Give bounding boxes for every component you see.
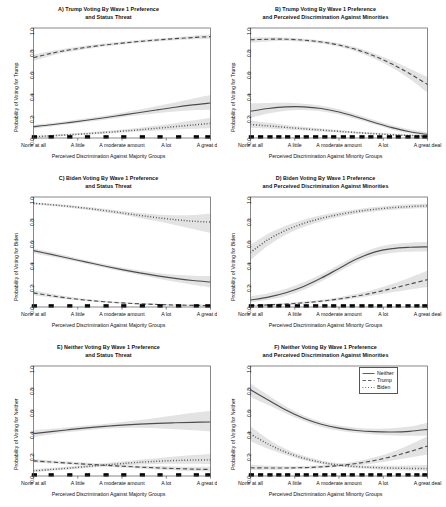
x-axis-label: Perceived Discrimination Against Majorit… bbox=[0, 322, 217, 328]
y-axis-label: Probability of Voting for Neither bbox=[13, 398, 19, 470]
legend-item-biden: Biden bbox=[362, 384, 394, 391]
y-tick-label: 0.4 bbox=[29, 94, 35, 101]
x-axis-label: Perceived Discrimination Against Majorit… bbox=[0, 491, 217, 497]
y-tick-label: 0.6 bbox=[246, 72, 252, 79]
x-axis-label: Perceived Discrimination Against Minorit… bbox=[217, 322, 434, 328]
chart-panel-c: C) Biden Voting By Wave 1 Preferenceand … bbox=[0, 169, 217, 338]
chart-panel-b: B) Trump Voting By Wave 1 Preferenceand … bbox=[217, 0, 434, 169]
y-axis-label: Probability of Voting for Biden bbox=[13, 233, 19, 301]
legend-key-dashed bbox=[362, 377, 375, 384]
y-tick-label: 0.2 bbox=[29, 116, 35, 123]
y-axis-label: Probability of Voting for Trump bbox=[13, 63, 19, 133]
y-axis-label: Probability of Voting for Trump bbox=[230, 63, 236, 133]
legend-item-neither: Neither bbox=[362, 370, 394, 377]
y-tick-label: 1.0 bbox=[29, 366, 35, 373]
x-tick-label: A great deal bbox=[398, 480, 446, 486]
legend-item-trump: Trump bbox=[362, 377, 394, 384]
series-line-trump bbox=[34, 37, 211, 58]
x-tick-label: A great deal bbox=[398, 311, 446, 317]
y-tick-label: 0.4 bbox=[246, 263, 252, 270]
y-tick-label: 0.4 bbox=[29, 263, 35, 270]
y-tick-label: 0.2 bbox=[246, 285, 252, 292]
y-tick-label: 0.6 bbox=[29, 72, 35, 79]
y-tick-label: 0.8 bbox=[246, 219, 252, 226]
y-tick-label: 0.8 bbox=[246, 50, 252, 57]
chart-panel-f: F) Neither Voting By Wave 1 Preferencean… bbox=[217, 338, 434, 507]
y-tick-label: 0.4 bbox=[246, 432, 252, 439]
y-tick-label: 0.4 bbox=[246, 94, 252, 101]
y-tick-label: 1.0 bbox=[246, 366, 252, 373]
y-tick-label: 0.6 bbox=[29, 241, 35, 248]
y-tick-label: 0.2 bbox=[246, 116, 252, 123]
x-axis-label: Perceived Discrimination Against Minorit… bbox=[217, 491, 434, 497]
chart-panel-e: E) Neither Voting By Wave 1 Preferencean… bbox=[0, 338, 217, 507]
y-tick-label: 1.0 bbox=[29, 197, 35, 204]
confidence-bands bbox=[34, 202, 211, 306]
y-tick-label: 0.6 bbox=[29, 410, 35, 417]
legend-label: Neither bbox=[377, 370, 394, 377]
y-tick-label: 0.2 bbox=[29, 285, 35, 292]
series-line-trump bbox=[34, 293, 211, 306]
y-tick-label: 0.4 bbox=[29, 432, 35, 439]
y-tick-label: 0.8 bbox=[246, 388, 252, 395]
y-tick-label: 0.8 bbox=[29, 219, 35, 226]
y-tick-label: 0.6 bbox=[246, 241, 252, 248]
chart-panel-a: A) Trump Voting By Wave 1 Preferenceand … bbox=[0, 0, 217, 169]
y-tick-label: 0.8 bbox=[29, 50, 35, 57]
chart-panel-d: D) Biden Voting By Wave 1 Preferenceand … bbox=[217, 169, 434, 338]
legend-key-dotted bbox=[362, 384, 375, 391]
x-tick-label: A great deal bbox=[398, 142, 446, 148]
confidence-bands bbox=[251, 37, 428, 137]
x-axis-label: Perceived Discrimination Against Minorit… bbox=[217, 153, 434, 159]
axis-ticks bbox=[248, 366, 428, 479]
y-axis-label: Probability of Voting for Biden bbox=[230, 233, 236, 301]
y-tick-label: 0.6 bbox=[246, 410, 252, 417]
y-tick-label: 0.2 bbox=[246, 454, 252, 461]
y-tick-label: 1.0 bbox=[246, 197, 252, 204]
confidence-bands bbox=[251, 384, 428, 471]
x-axis-label: Perceived Discrimination Against Majorit… bbox=[0, 153, 217, 159]
y-tick-label: 1.0 bbox=[246, 28, 252, 35]
y-tick-label: 0.8 bbox=[29, 388, 35, 395]
confidence-bands bbox=[34, 35, 211, 138]
legend-label: Trump bbox=[377, 377, 392, 384]
confidence-bands bbox=[34, 411, 211, 472]
confidence-bands bbox=[251, 203, 428, 306]
y-axis-label: Probability of Voting for Neither bbox=[230, 398, 236, 470]
legend-label: Biden bbox=[377, 384, 390, 391]
legend: NeitherTrumpBiden bbox=[359, 367, 398, 394]
y-tick-label: 0.2 bbox=[29, 454, 35, 461]
y-tick-label: 1.0 bbox=[29, 28, 35, 35]
legend-key-solid bbox=[362, 370, 375, 377]
